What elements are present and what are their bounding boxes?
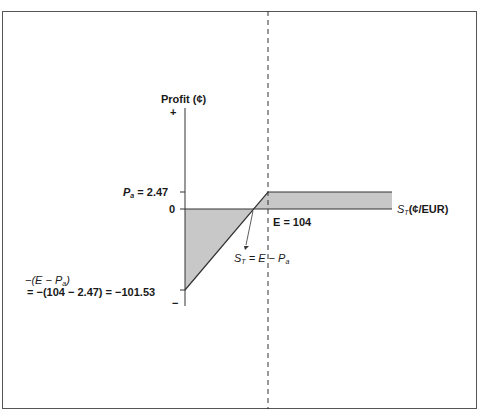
y-axis-title: Profit (¢) — [161, 93, 206, 105]
premium-label: Pa = 2.47 — [123, 186, 168, 202]
strike-label: E = 104 — [273, 216, 311, 228]
x-axis-title: ST(¢/EUR) — [397, 203, 448, 219]
minus-sign: − — [172, 297, 178, 309]
plus-sign: + — [170, 106, 176, 118]
breakeven-label: ST = E − Pa — [234, 252, 289, 268]
profit-region — [254, 192, 392, 209]
zero-label: 0 — [169, 203, 175, 215]
min-label-line2: = −(104 − 2.47) = −101.53 — [27, 286, 155, 298]
